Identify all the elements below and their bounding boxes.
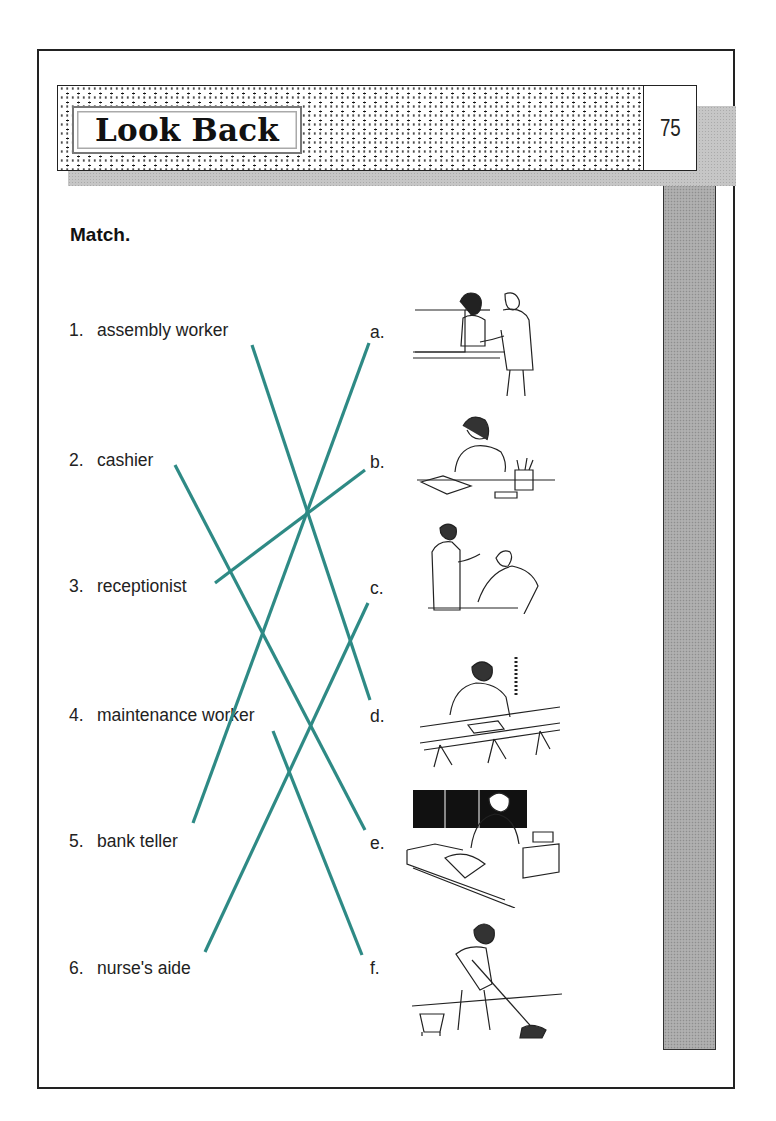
picture-e-cashier	[405, 788, 565, 908]
line-2-e	[175, 465, 365, 830]
answer-lines	[0, 0, 776, 1121]
line-6-c	[205, 603, 368, 952]
picture-b-receptionist	[415, 412, 555, 504]
window-icon	[413, 790, 527, 828]
line-3-b	[215, 470, 365, 583]
line-4-f	[273, 731, 362, 955]
picture-f-maintenance-worker	[412, 920, 562, 1042]
picture-a-bank-teller	[405, 290, 545, 398]
picture-d-assembly-worker	[410, 655, 560, 773]
picture-c-nurses-aide	[428, 522, 553, 614]
